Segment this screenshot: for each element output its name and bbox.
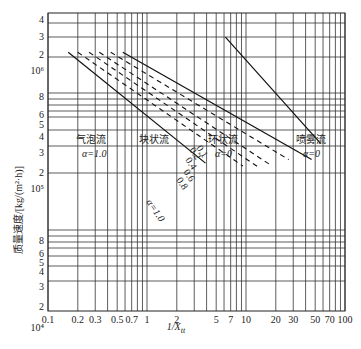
y-tick-label: 3 (39, 147, 44, 158)
x-tick-label: 0.2 (72, 314, 85, 325)
y-tick-label: 3 (39, 31, 44, 42)
chart: 0.10.20.30.50.712571020305070100 43210⁶8… (0, 0, 361, 349)
x-tick-label: 0.7 (125, 314, 138, 325)
x-tick-label: 10 (241, 314, 251, 325)
y-tick-label: 2 (39, 301, 44, 312)
region-label-slug: 块状流 (139, 133, 169, 145)
series-line-α=1.0 (68, 52, 205, 163)
y-tick-label: 10⁵ (31, 183, 45, 194)
region-label-bubble: 气泡流 (76, 133, 106, 145)
y-axis-label: 质量速度/[kg/(m²·h)] (12, 166, 25, 254)
region-alpha-annular: α=0 (215, 148, 232, 159)
x-tick-label: 7 (228, 314, 233, 325)
x-axis-label: 1/Xtt (167, 321, 186, 335)
y-tick-label: 5 (39, 119, 44, 130)
y-tick-label: 3 (39, 281, 44, 292)
region-alpha-spray: α=0 (303, 148, 320, 159)
x-tick-label: 5 (214, 314, 219, 325)
region-alpha-bubble: α=1.0 (82, 148, 107, 159)
region-label-annular: 环状流 (208, 133, 238, 145)
x-tick-label: 70 (325, 314, 335, 325)
x-tick-label: 1 (145, 314, 150, 325)
y-tick-label: 8 (39, 91, 44, 102)
y-tick-label: 2 (39, 167, 44, 178)
x-tick-label: 20 (271, 314, 281, 325)
y-tick-label: 4 (39, 14, 44, 25)
x-tick-label: 30 (288, 314, 298, 325)
series-label-1.0: α=1.0 (144, 197, 167, 223)
y-tick-label: 10⁶ (31, 65, 45, 76)
y-tick-label: 2 (39, 49, 44, 60)
y-tick-label: 8 (39, 235, 44, 246)
x-tick-label: 100 (338, 314, 353, 325)
y-tick-labels: 43210⁶86543210⁵86543210⁴ (31, 14, 45, 333)
y-tick-label: 10⁴ (31, 322, 45, 333)
region-label-spray: 喷雾流 (296, 133, 326, 145)
x-tick-label: 0.5 (111, 314, 124, 325)
x-tick-labels: 0.10.20.30.50.712571020305070100 (42, 314, 353, 325)
x-tick-label: 0.3 (89, 314, 102, 325)
series-line-0.6 (89, 52, 257, 166)
series-line-喷雾流边界 (225, 37, 320, 144)
x-tick-label: 50 (310, 314, 320, 325)
y-tick-label: 4 (39, 131, 44, 142)
y-tick-label: 4 (39, 266, 44, 277)
